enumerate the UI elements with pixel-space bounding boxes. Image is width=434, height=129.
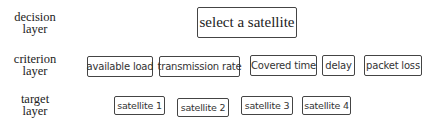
decision-layer-label: decision layer <box>0 11 70 35</box>
criterion-node-packet-loss: packet loss <box>364 55 422 76</box>
criterion-layer-label-line2: layer <box>0 65 70 77</box>
criterion-node-transmission-rate: transmission rate <box>159 56 240 77</box>
decision-node-select-a-satellite: select a satellite <box>197 7 297 38</box>
target-layer-label-line2: layer <box>0 105 70 117</box>
target-node-satellite-4: satellite 4 <box>302 96 351 115</box>
criterion-node-available-load: available load <box>87 56 153 77</box>
criterion-layer-label: criterion layer <box>0 53 70 77</box>
criterion-node-covered-time: Covered time <box>250 55 317 76</box>
criterion-node-delay: delay <box>322 55 355 76</box>
target-node-satellite-3: satellite 3 <box>241 96 293 115</box>
target-node-satellite-2: satellite 2 <box>177 98 229 117</box>
target-node-satellite-1: satellite 1 <box>114 96 165 115</box>
target-layer-label: target layer <box>0 93 70 117</box>
decision-layer-label-line2: layer <box>0 23 70 35</box>
